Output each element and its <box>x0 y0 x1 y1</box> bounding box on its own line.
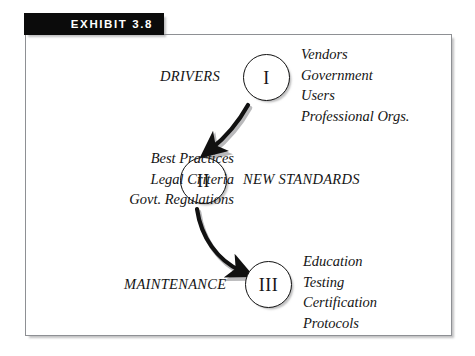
process-flow-diagram: I DRIVERS Vendors Government Users Profe… <box>0 0 475 356</box>
list-item: Best Practices <box>58 148 234 169</box>
list-item: Govt. Regulations <box>58 189 234 210</box>
list-item: Certification <box>303 292 377 313</box>
list-item: Users <box>301 85 410 106</box>
list-item: Government <box>301 65 410 86</box>
node-circle-three: III <box>245 261 292 308</box>
node-three-numeral: III <box>259 276 278 294</box>
arrow-drivers-to-standards <box>211 105 248 149</box>
list-item: Education <box>303 251 377 272</box>
stage-label-drivers: DRIVERS <box>160 68 220 85</box>
list-item: Vendors <box>301 44 410 65</box>
maintenance-item-list: Education Testing Certification Protocol… <box>303 251 377 333</box>
node-one-numeral: I <box>263 69 270 87</box>
list-item: Protocols <box>303 313 377 334</box>
list-item: Legal Criteria <box>58 169 234 190</box>
arrow-two-shadow <box>199 212 243 274</box>
drivers-item-list: Vendors Government Users Professional Or… <box>301 44 410 126</box>
list-item: Professional Orgs. <box>301 106 410 127</box>
stage-label-maintenance: MAINTENANCE <box>124 276 226 293</box>
standards-item-list: Best Practices Legal Criteria Govt. Regu… <box>58 148 234 210</box>
stage-label-new-standards: NEW STANDARDS <box>243 171 360 188</box>
arrow-standards-to-maintenance <box>197 209 241 271</box>
list-item: Testing <box>303 272 377 293</box>
node-circle-one: I <box>243 54 290 101</box>
